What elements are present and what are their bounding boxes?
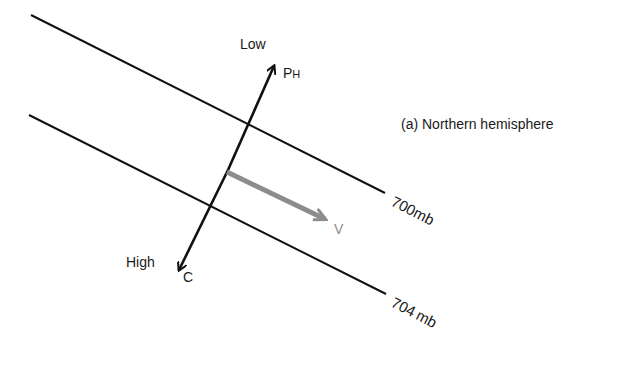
pressure-force-label-sub: H	[292, 68, 300, 80]
coriolis-force-arrow	[179, 170, 228, 270]
isobar-704-line	[29, 115, 386, 294]
hemisphere-caption: (a) Northern hemisphere	[401, 116, 554, 132]
high-pressure-label: High	[126, 254, 155, 270]
geostrophic-wind-diagram: Low PH High C V (a) Northern hemisphere …	[0, 0, 637, 384]
svg-text:704mb: 704mb	[389, 294, 440, 331]
wind-vector-label: V	[334, 221, 344, 237]
diagram-svg: Low PH High C V (a) Northern hemisphere …	[0, 0, 637, 384]
isobar-704-label: 704mb	[389, 294, 440, 331]
isobar-704-value: 704	[389, 294, 419, 321]
pressure-force-label: PH	[283, 65, 300, 81]
svg-text:700mb: 700mb	[389, 193, 438, 229]
wind-vector-arrow	[227, 172, 325, 219]
pressure-force-label-main: P	[283, 65, 292, 81]
low-pressure-label: Low	[240, 36, 267, 52]
isobar-700-line	[31, 15, 385, 193]
isobar-700-label: 700mb	[389, 193, 438, 229]
isobar-704-unit: mb	[414, 306, 440, 331]
coriolis-force-label: C	[183, 269, 193, 285]
